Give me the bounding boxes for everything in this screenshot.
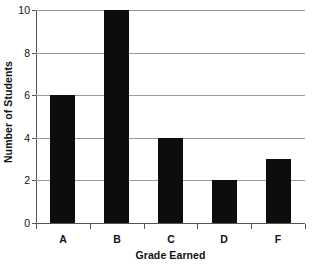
x-axis-line xyxy=(36,223,305,224)
y-axis-title-text: Number of Students xyxy=(2,61,14,163)
x-tick-label-a: A xyxy=(59,234,67,245)
x-tick-label-c: C xyxy=(167,234,175,245)
x-tick-mark xyxy=(90,224,91,229)
bar-a xyxy=(50,95,75,223)
x-tick-mark xyxy=(144,224,145,229)
y-tick-mark xyxy=(32,138,36,139)
y-tick-label: 4 xyxy=(24,133,30,144)
y-axis-line xyxy=(36,10,37,224)
x-tick-mark xyxy=(36,224,37,229)
bar-f xyxy=(266,159,291,223)
y-tick-label: 10 xyxy=(18,5,30,16)
bar-b xyxy=(104,10,129,223)
y-tick-mark xyxy=(32,10,36,11)
y-tick-label: 2 xyxy=(24,175,30,186)
y-tick-label: 8 xyxy=(24,47,30,58)
x-tick-label-d: D xyxy=(220,234,228,245)
x-axis-title: Grade Earned xyxy=(36,249,305,261)
gridline xyxy=(36,53,305,54)
y-tick-mark xyxy=(32,180,36,181)
bar-d xyxy=(212,180,237,223)
x-tick-label-f: F xyxy=(275,234,281,245)
gridline xyxy=(36,10,305,11)
y-tick-mark xyxy=(32,95,36,96)
y-tick-mark xyxy=(32,53,36,54)
plot-area: 0246810 ABCDF xyxy=(36,10,305,224)
y-axis-title: Number of Students xyxy=(0,0,16,224)
bar-chart: Number of Students 0246810 ABCDF Grade E… xyxy=(0,0,316,269)
bar-c xyxy=(158,138,183,223)
y-tick-label: 6 xyxy=(24,90,30,101)
y-tick-label: 0 xyxy=(24,218,30,229)
x-tick-mark xyxy=(251,224,252,229)
x-tick-mark xyxy=(197,224,198,229)
x-tick-label-b: B xyxy=(113,234,121,245)
gridline xyxy=(36,95,305,96)
x-tick-mark xyxy=(305,224,306,229)
